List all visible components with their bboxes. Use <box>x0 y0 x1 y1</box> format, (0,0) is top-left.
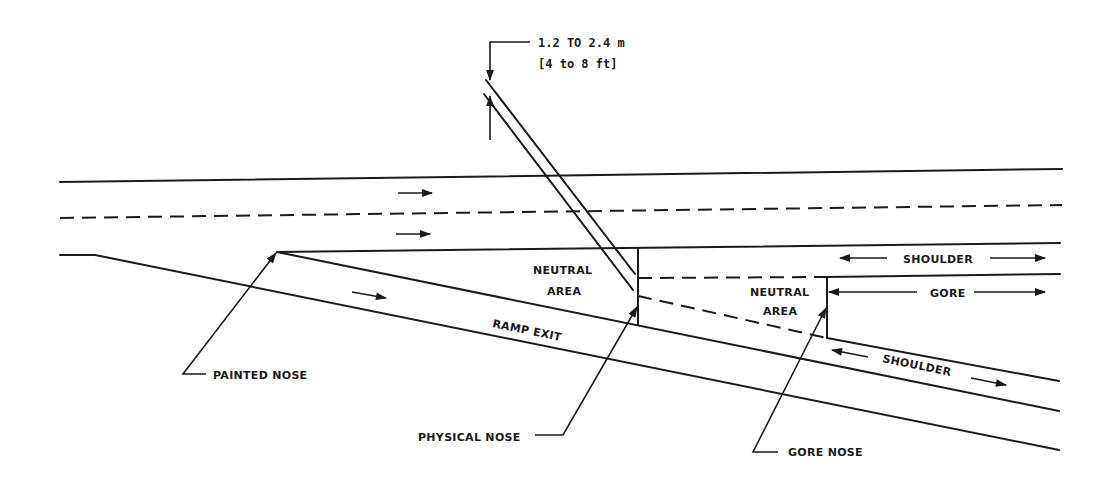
arrow-right-icon <box>971 378 1006 385</box>
gore-nose-callout: GORE NOSE <box>753 308 863 459</box>
shoulder-top-annotation: SHOULDER <box>840 253 1045 266</box>
neutral-area-1-label: AREA <box>547 285 581 298</box>
neutral-area-2-label: NEUTRAL <box>750 286 809 299</box>
painted-nose-callout: PAINTED NOSE <box>183 253 307 382</box>
dimension-callout: 1.2 TO 2.4 m [4 to 8 ft] <box>490 36 625 140</box>
shoulder-ramp-label: SHOULDER <box>881 352 952 379</box>
mainline-lane-line <box>60 205 1062 218</box>
physical-nose-label: PHYSICAL NOSE <box>418 431 521 444</box>
leader-arrow-icon <box>183 253 276 374</box>
mainline-inner-edge <box>277 243 1060 252</box>
dimension-arrow-down-icon <box>490 42 530 80</box>
exit-ramp <box>95 252 1059 450</box>
gore-dashed-line <box>638 277 827 278</box>
offset-line-lower <box>484 94 633 290</box>
arrow-left-icon <box>832 350 868 357</box>
dimension-imperial: [4 to 8 ft] <box>538 57 617 71</box>
neutral-area-1-label: NEUTRAL <box>533 264 592 277</box>
ramp-traffic-arrow-icon <box>352 292 386 298</box>
neutral-area-2-label: AREA <box>763 305 797 318</box>
gore-nose-label: GORE NOSE <box>788 446 863 459</box>
mainline-roadway <box>60 169 1062 255</box>
exit-ramp-gore-diagram: 1.2 TO 2.4 m [4 to 8 ft] NEUTRAL AREA NE… <box>0 0 1117 482</box>
gore-label: GORE <box>930 287 966 300</box>
shoulder-top-label: SHOULDER <box>903 253 973 266</box>
gore-area <box>638 248 1060 338</box>
painted-nose-label: PAINTED NOSE <box>213 369 307 382</box>
leader-arrow-icon <box>535 307 637 435</box>
dimension-metric: 1.2 TO 2.4 m <box>538 36 625 50</box>
shoulder-gore-line <box>827 274 1060 277</box>
gore-annotation: GORE <box>829 287 1045 300</box>
ramp-exit-label: RAMP EXIT <box>491 317 562 344</box>
mainline-outer-edge <box>60 169 1062 182</box>
offset-width-lines <box>484 80 635 290</box>
